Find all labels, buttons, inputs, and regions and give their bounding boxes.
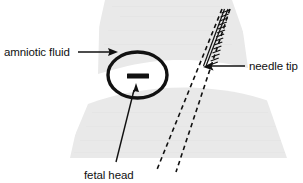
fetal-head-inner-mark <box>127 74 149 79</box>
label-fetal-head: fetal head <box>84 169 134 181</box>
diagram-canvas: amniotic fluid needle tip fetal head <box>0 0 303 183</box>
amniocentesis-ultrasound-figure: amniotic fluid needle tip fetal head <box>0 0 303 183</box>
label-amniotic-fluid: amniotic fluid <box>4 46 70 58</box>
label-needle-tip: needle tip <box>249 60 298 72</box>
ultrasound-scan-sector <box>0 0 303 183</box>
